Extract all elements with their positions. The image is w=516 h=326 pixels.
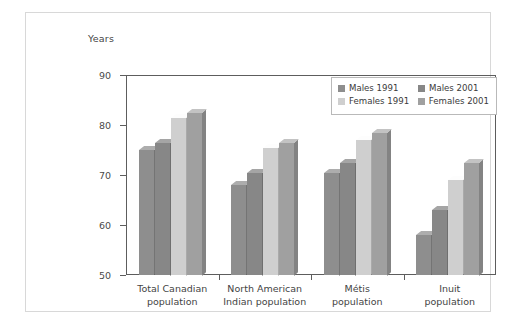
bar	[263, 148, 278, 276]
bar-face	[464, 163, 479, 276]
bar-face	[324, 173, 339, 276]
y-axis-tick-label: 50	[99, 270, 111, 281]
y-axis-tick: 60	[120, 225, 126, 226]
bar-face	[139, 150, 154, 275]
x-axis-category-label: Inuitpopulation	[404, 283, 497, 308]
x-axis-category-label: North AmericanIndian population	[219, 283, 312, 308]
bar-side	[294, 139, 298, 275]
bar-face	[171, 118, 186, 276]
x-axis-tick	[311, 274, 312, 280]
x-axis-category-line: Total Canadian	[126, 283, 219, 296]
chart-legend: Males 1991 Males 2001 Females 1991 Femal…	[331, 77, 497, 115]
bar-face	[187, 113, 202, 276]
legend-item-males-1991: Males 1991	[338, 83, 418, 93]
bar	[464, 163, 479, 276]
axis-line-left	[126, 75, 127, 275]
bar	[231, 185, 246, 275]
bar-face	[279, 143, 294, 276]
bar-face	[340, 163, 355, 276]
legend-swatch-icon	[338, 85, 345, 92]
x-axis-tick	[404, 274, 405, 280]
legend-row: Males 1991 Males 2001	[338, 83, 489, 96]
y-axis-tick-label: 90	[99, 70, 111, 81]
bar	[340, 163, 355, 276]
bar	[247, 173, 262, 276]
bar-face	[356, 140, 371, 275]
bar-face	[263, 148, 278, 276]
bar-face	[231, 185, 246, 275]
y-axis-tick-label: 70	[99, 170, 111, 181]
x-axis-category-line: population	[404, 296, 497, 309]
y-axis-tick-label: 60	[99, 220, 111, 231]
x-axis-category-label: Total Canadianpopulation	[126, 283, 219, 308]
bar-face	[155, 143, 170, 276]
bar	[416, 235, 431, 275]
legend-swatch-icon	[418, 98, 425, 105]
x-axis-category-label: Métispopulation	[311, 283, 404, 308]
y-axis-tick: 80	[120, 125, 126, 126]
bar-face	[247, 173, 262, 276]
bar	[279, 143, 294, 276]
bar-group	[231, 75, 298, 275]
bar	[139, 150, 154, 275]
bar-side	[202, 109, 206, 275]
bar-face	[372, 133, 387, 276]
y-axis-tick: 50	[120, 275, 126, 276]
bar	[155, 143, 170, 276]
bar	[324, 173, 339, 276]
bar	[448, 180, 463, 275]
y-axis-tick: 70	[120, 175, 126, 176]
x-axis-category-line: population	[126, 296, 219, 309]
x-axis-category-line: population	[311, 296, 404, 309]
legend-item-males-2001: Males 2001	[418, 83, 478, 93]
legend-swatch-icon	[338, 98, 345, 105]
bar	[187, 113, 202, 276]
bar-face	[448, 180, 463, 275]
bar-group	[139, 75, 206, 275]
x-axis-category-line: Indian population	[219, 296, 312, 309]
x-axis-category-line: Métis	[311, 283, 404, 296]
x-axis-category-line: North American	[219, 283, 312, 296]
legend-label: Females 2001	[429, 96, 489, 106]
y-axis-tick-label: 80	[99, 120, 111, 131]
bar-side	[479, 159, 483, 275]
figure-frame: Years 5060708090 Total Canadianpopulatio…	[25, 12, 491, 312]
legend-label: Males 1991	[349, 83, 398, 93]
legend-label: Males 2001	[429, 83, 478, 93]
bar	[372, 133, 387, 276]
y-axis-title: Years	[88, 33, 114, 44]
legend-swatch-icon	[418, 85, 425, 92]
bar-face	[416, 235, 431, 275]
legend-row: Females 1991 Females 2001	[338, 96, 489, 109]
bar-side	[387, 129, 391, 275]
bar	[171, 118, 186, 276]
legend-item-females-1991: Females 1991	[338, 96, 418, 106]
bar-face	[432, 210, 447, 275]
x-axis-category-line: Inuit	[404, 283, 497, 296]
x-axis-tick	[219, 274, 220, 280]
bar	[356, 140, 371, 275]
bar	[432, 210, 447, 275]
legend-label: Females 1991	[349, 96, 409, 106]
legend-item-females-2001: Females 2001	[418, 96, 489, 106]
y-axis-tick: 90	[120, 75, 126, 76]
